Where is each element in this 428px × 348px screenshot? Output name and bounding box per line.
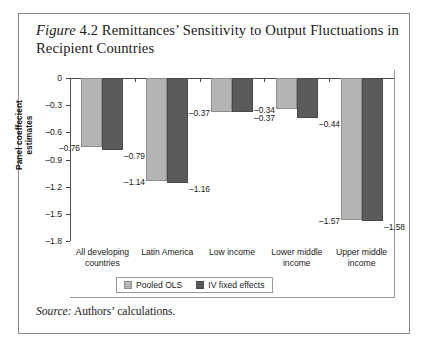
x-axis-category-line: Upper middle [329, 247, 394, 258]
y-axis-line [70, 78, 71, 241]
y-axis-tick-label: –1.5 [34, 209, 62, 219]
bar-value-label: –1.57 [319, 216, 340, 226]
bar-pooled-ols[interactable] [146, 78, 167, 181]
x-axis-tick-mark [329, 78, 330, 82]
x-axis-category-label: Upper middleincome [329, 247, 394, 268]
y-axis-tick-label: –0.3 [34, 100, 62, 110]
y-axis-tick-label: –0.9 [34, 155, 62, 165]
x-axis-tick-mark [264, 78, 265, 82]
bar-iv-fixed-effects[interactable] [102, 78, 123, 150]
legend-swatch-icon-iv-fixed-effects [196, 281, 204, 289]
legend-item-pooled-ols[interactable]: Pooled OLS [124, 280, 182, 290]
y-axis-tick-mark [66, 241, 70, 242]
bar-value-label: –1.14 [124, 177, 145, 187]
x-axis-category-line: All developing [70, 247, 135, 258]
y-axis-tick-label: –0.6 [34, 127, 62, 137]
plot-right-border [394, 70, 395, 297]
bar-value-label: –0.76 [59, 143, 80, 153]
bar-iv-fixed-effects[interactable] [232, 78, 253, 112]
x-axis-category-line: countries [70, 258, 135, 269]
x-axis-category-line: Low income [200, 247, 265, 258]
bar-iv-fixed-effects[interactable] [297, 78, 318, 118]
chart-legend: Pooled OLS IV fixed effects [116, 277, 273, 293]
source-text: Authors’ calculations. [72, 305, 176, 318]
bar-iv-fixed-effects[interactable] [167, 78, 188, 183]
x-axis-category-label: Lower middleincome [264, 247, 329, 268]
bar-value-label: –0.44 [319, 119, 340, 129]
bar-pooled-ols[interactable] [211, 78, 232, 112]
bar-value-label: –0.37 [189, 108, 210, 118]
x-axis-category-line: Lower middle [264, 247, 329, 258]
x-axis-category-line: Latin America [135, 247, 200, 258]
x-axis-category-label: Low income [200, 247, 265, 258]
legend-swatch-icon-pooled-ols [124, 281, 132, 289]
x-axis-tick-mark [135, 78, 136, 82]
bar-iv-fixed-effects[interactable] [362, 78, 383, 221]
x-axis-category-label: Latin America [135, 247, 200, 258]
bar-pooled-ols[interactable] [276, 78, 297, 109]
y-axis-tick-label: –1.8 [34, 236, 62, 246]
y-axis-title: Panel coeffecient estimates [14, 80, 34, 190]
bar-pooled-ols[interactable] [341, 78, 362, 220]
legend-label-pooled-ols: Pooled OLS [136, 280, 182, 290]
y-axis-tick-label: 0 [34, 73, 62, 83]
x-axis-category-line: income [329, 258, 394, 269]
chart-plot-area: Panel coeffecient estimates 0–0.3–0.6–0.… [0, 0, 428, 348]
legend-label-iv-fixed-effects: IV fixed effects [208, 280, 264, 290]
bar-value-label: –0.34 [254, 105, 275, 115]
bar-pooled-ols[interactable] [81, 78, 102, 147]
figure-container: Figure 4.2 Remittances’ Sensitivity to O… [0, 0, 428, 348]
x-axis-category-line: income [264, 258, 329, 269]
legend-item-iv-fixed-effects[interactable]: IV fixed effects [196, 280, 264, 290]
source-note: Source: Authors’ calculations. [36, 305, 175, 318]
bar-value-label: –1.58 [384, 222, 405, 232]
bar-value-label: –0.79 [124, 151, 145, 161]
bar-value-label: –1.16 [189, 184, 210, 194]
y-axis-tick-label: –1.2 [34, 182, 62, 192]
x-axis-category-label: All developingcountries [70, 247, 135, 268]
x-axis-tick-mark [200, 78, 201, 82]
source-label: Source: [36, 305, 72, 318]
plot-bottom-border [70, 297, 395, 298]
